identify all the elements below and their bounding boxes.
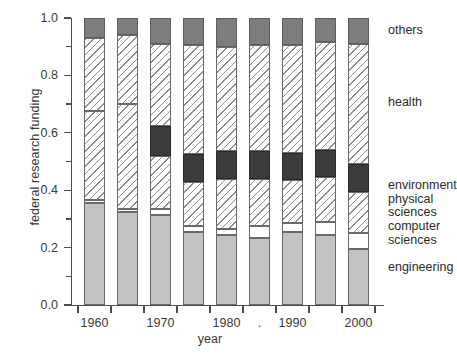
bar-1995[interactable] <box>315 18 337 305</box>
bar-segment-others[interactable] <box>117 18 139 35</box>
category-label-line: sciences <box>388 206 437 220</box>
bar-segment-health[interactable] <box>150 44 172 126</box>
bar-segment-engineering[interactable] <box>150 215 172 305</box>
bar-1990[interactable] <box>282 18 304 305</box>
y-tick-minor <box>66 46 71 47</box>
bar-segment-environment[interactable] <box>348 164 370 191</box>
bar-segment-computer-sciences[interactable] <box>315 222 337 235</box>
bar-1970[interactable] <box>150 18 172 305</box>
x-tick-label: 1990 <box>279 316 307 330</box>
hatch-pattern <box>217 48 237 151</box>
x-tick-label: 1980 <box>213 316 241 330</box>
bar-segment-health[interactable] <box>282 45 304 153</box>
bar-segment-environment[interactable] <box>150 126 172 156</box>
hatch-pattern <box>85 112 105 199</box>
bar-segment-computer-sciences[interactable] <box>249 226 271 237</box>
hatch-pattern <box>85 39 105 110</box>
bar-segment-others[interactable] <box>348 18 370 44</box>
bar-segment-physical-sciences[interactable] <box>348 192 370 234</box>
y-tick <box>64 247 71 248</box>
x-tick <box>209 306 210 313</box>
bar-segment-physical-sciences[interactable] <box>282 180 304 223</box>
bar-1975[interactable] <box>183 18 205 305</box>
bar-segment-others[interactable] <box>150 18 172 44</box>
y-tick-label: 0.4 <box>26 183 58 197</box>
bar-segment-health[interactable] <box>249 45 271 151</box>
x-tick-label: 2000 <box>345 316 373 330</box>
y-tick-label: 0.8 <box>26 68 58 82</box>
bar-segment-computer-sciences[interactable] <box>150 209 172 215</box>
hatch-pattern <box>283 46 303 152</box>
bar-segment-environment[interactable] <box>282 153 304 180</box>
bar-segment-physical-sciences[interactable] <box>216 179 238 229</box>
bar-2000[interactable] <box>348 18 370 305</box>
bar-segment-health[interactable] <box>117 35 139 104</box>
y-tick <box>64 304 71 305</box>
hatch-pattern <box>349 45 369 164</box>
bar-segment-others[interactable] <box>282 18 304 45</box>
bar-segment-environment[interactable] <box>249 151 271 178</box>
x-tick <box>275 306 276 313</box>
bar-1960[interactable] <box>84 18 106 305</box>
hatch-pattern <box>151 45 171 125</box>
hatch-pattern <box>184 183 204 225</box>
bar-segment-engineering[interactable] <box>348 249 370 305</box>
category-label-line: computer <box>388 220 440 234</box>
bar-segment-others[interactable] <box>315 18 337 42</box>
bar-segment-physical-sciences[interactable] <box>315 177 337 221</box>
category-label-health: health <box>388 96 422 110</box>
x-tick <box>242 306 243 313</box>
category-label-line: sciences <box>388 234 440 248</box>
category-label-line: physical <box>388 193 437 207</box>
bar-segment-computer-sciences[interactable] <box>84 200 106 203</box>
bar-segment-computer-sciences[interactable] <box>183 226 205 232</box>
y-tick <box>64 132 71 133</box>
bar-segment-physical-sciences[interactable] <box>183 182 205 226</box>
bar-segment-physical-sciences[interactable] <box>84 111 106 200</box>
bar-segment-environment[interactable] <box>216 151 238 178</box>
bar-segment-health[interactable] <box>315 42 337 150</box>
bar-segment-engineering[interactable] <box>249 238 271 305</box>
bar-segment-engineering[interactable] <box>117 212 139 305</box>
y-tick-minor <box>66 161 71 162</box>
bar-segment-engineering[interactable] <box>282 232 304 305</box>
bar-segment-environment[interactable] <box>315 150 337 177</box>
bar-segment-computer-sciences[interactable] <box>348 233 370 249</box>
category-label-computer-sciences: computersciences <box>388 220 440 247</box>
bar-segment-physical-sciences[interactable] <box>117 104 139 209</box>
bar-1980[interactable] <box>216 18 238 305</box>
bar-segment-health[interactable] <box>216 47 238 152</box>
y-tick <box>64 17 71 18</box>
bar-1985[interactable] <box>249 18 271 305</box>
y-tick-label: 0.2 <box>26 241 58 255</box>
x-tick <box>176 306 177 313</box>
category-label-engineering: engineering <box>388 261 453 275</box>
x-tick <box>308 306 309 313</box>
y-tick <box>64 190 71 191</box>
bar-segment-environment[interactable] <box>183 154 205 181</box>
bar-segment-computer-sciences[interactable] <box>216 229 238 235</box>
bar-segment-health[interactable] <box>348 44 370 165</box>
bar-segment-physical-sciences[interactable] <box>150 156 172 209</box>
plot-area <box>78 18 375 305</box>
bar-segment-others[interactable] <box>216 18 238 47</box>
bar-segment-engineering[interactable] <box>315 235 337 305</box>
bar-segment-computer-sciences[interactable] <box>282 223 304 232</box>
y-tick-label: 1.0 <box>26 11 58 25</box>
bar-segment-engineering[interactable] <box>216 235 238 305</box>
bar-segment-others[interactable] <box>249 18 271 45</box>
x-tick-label: 1970 <box>147 316 175 330</box>
bar-segment-others[interactable] <box>84 18 106 38</box>
bar-segment-health[interactable] <box>183 45 205 154</box>
bar-segment-health[interactable] <box>84 38 106 111</box>
bar-segment-computer-sciences[interactable] <box>117 209 139 212</box>
bar-segment-engineering[interactable] <box>84 203 106 305</box>
x-tick <box>143 306 144 313</box>
stacked-bar-chart: federal research funding year 0.00.20.40… <box>0 0 457 359</box>
bar-1965[interactable] <box>117 18 139 305</box>
bar-segment-engineering[interactable] <box>183 232 205 305</box>
hatch-pattern <box>349 193 369 233</box>
x-axis-line <box>71 305 384 306</box>
bar-segment-physical-sciences[interactable] <box>249 179 271 226</box>
bar-segment-others[interactable] <box>183 18 205 45</box>
